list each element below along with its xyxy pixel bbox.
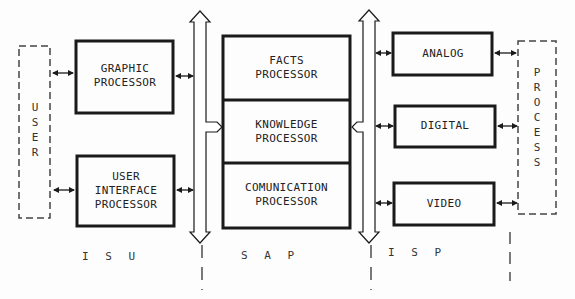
graphic-processor-label: GRAPHIC PROCESSOR [78, 62, 172, 90]
facts-processor-label: FACTS PROCESSOR [225, 54, 348, 82]
user-interface-processor-label: USER INTERFACE PROCESSOR [79, 170, 173, 212]
video-label: VIDEO [396, 197, 492, 211]
knowledge-processor-label: KNOWLEDGE PROCESSOR [225, 118, 348, 146]
isp-section-label: I S P [388, 246, 446, 259]
right-bus-arrow [352, 10, 379, 243]
communication-processor-label: COMUNICATION PROCESSOR [225, 181, 348, 209]
isu-section-label: I S U [82, 250, 140, 263]
process-label: P R O C E S S [530, 65, 544, 170]
sap-section-label: S A P [241, 249, 299, 262]
user-label: U S E R [28, 100, 42, 160]
analog-label: ANALOG [395, 47, 491, 61]
left-bus-arrow [190, 11, 222, 243]
system-architecture-diagram: U S E R P R O C E S S GRAPHIC PROCESSOR … [0, 0, 575, 299]
digital-label: DIGITAL [397, 119, 493, 133]
